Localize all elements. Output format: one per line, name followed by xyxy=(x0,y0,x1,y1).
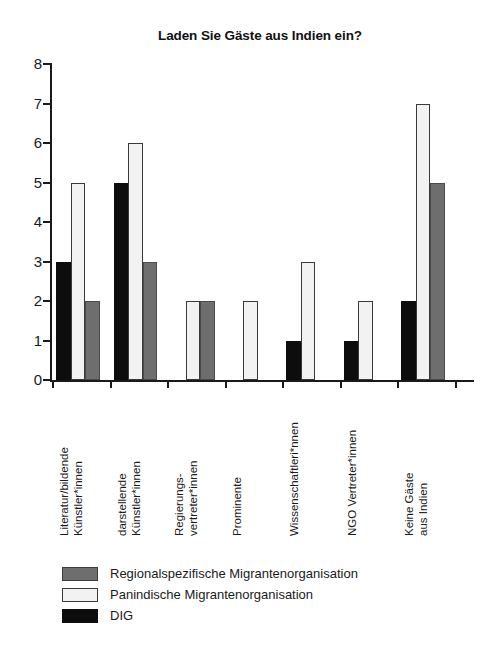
y-axis-tick-label: 1 xyxy=(14,333,42,348)
legend-item: Panindische Migrantenorganisation xyxy=(62,584,462,605)
x-axis-category-label-line: Künstler*innen xyxy=(129,386,143,536)
y-axis-tick xyxy=(43,379,52,381)
x-axis-category-label-line: Künstler*innen xyxy=(72,386,86,536)
bar-dig xyxy=(344,341,359,381)
x-axis-category-label-line: aus Indien xyxy=(417,386,431,536)
bar-pan xyxy=(416,104,431,381)
y-axis-tick xyxy=(43,63,52,65)
bar-reg xyxy=(143,262,158,381)
x-axis-category-label-line: Keine Gäste xyxy=(403,386,417,536)
y-axis-tick-label: 8 xyxy=(14,56,42,71)
y-axis-tick-labels: 876543210 xyxy=(10,64,42,382)
bar-pan xyxy=(358,301,373,380)
y-axis-tick-label: 6 xyxy=(14,135,42,150)
y-axis-tick xyxy=(43,221,52,223)
legend-label: Regionalspezifische Migrantenorganisatio… xyxy=(110,566,358,581)
bar-pan xyxy=(186,301,201,380)
legend-label: DIG xyxy=(110,608,133,623)
bar-reg xyxy=(200,301,215,380)
y-axis-tick xyxy=(43,142,52,144)
y-axis-tick xyxy=(43,300,52,302)
y-axis-tick-label: 2 xyxy=(14,293,42,308)
legend-swatch-reg xyxy=(62,567,98,581)
x-axis-category-label-line: Regierungs- xyxy=(173,386,187,536)
x-axis-category-label-line: Literatur/bildende xyxy=(58,386,72,536)
bar-dig xyxy=(56,262,71,381)
bar-pan xyxy=(301,262,316,381)
legend-swatch-dig xyxy=(62,609,98,623)
x-axis-category-label-line: Prominente xyxy=(231,386,245,536)
y-axis-tick xyxy=(43,340,52,342)
x-axis-line xyxy=(50,380,474,382)
y-axis-tick xyxy=(43,182,52,184)
bar-reg xyxy=(85,301,100,380)
legend-item: DIG xyxy=(62,605,462,626)
x-axis-category-label-line: vertreter*innen xyxy=(187,386,201,536)
x-axis-category-label-line: NGO Vertreter*innen xyxy=(346,386,360,536)
y-axis-tick-label: 0 xyxy=(14,372,42,387)
y-axis-tick xyxy=(43,103,52,105)
y-axis-tick-label: 7 xyxy=(14,96,42,111)
chart-legend: Regionalspezifische Migrantenorganisatio… xyxy=(62,563,462,626)
bar-chart-figure: Laden Sie Gäste aus Indien ein? 87654321… xyxy=(0,0,484,662)
bar-reg xyxy=(430,183,445,381)
bar-dig xyxy=(114,183,129,381)
legend-swatch-pan xyxy=(62,588,98,602)
legend-label: Panindische Migrantenorganisation xyxy=(110,587,313,602)
chart-title: Laden Sie Gäste aus Indien ein? xyxy=(60,28,460,43)
y-axis-line xyxy=(50,64,52,382)
y-axis-tick xyxy=(43,261,52,263)
legend-item: Regionalspezifische Migrantenorganisatio… xyxy=(62,563,462,584)
y-axis-tick-label: 5 xyxy=(14,175,42,190)
bar-pan xyxy=(243,301,258,380)
bar-pan xyxy=(128,143,143,380)
y-axis-tick-label: 3 xyxy=(14,254,42,269)
y-axis-tick-label: 4 xyxy=(14,214,42,229)
bar-pan xyxy=(71,183,86,381)
x-axis-category-label-line: Wissenschaftleri*nnen xyxy=(288,386,302,536)
bar-dig xyxy=(286,341,301,381)
x-axis-category-labels: Literatur/bildendeKünstler*innendarstell… xyxy=(50,386,474,546)
bar-dig xyxy=(401,301,416,380)
x-axis-category-label-line: darstellende xyxy=(116,386,130,536)
plot-area xyxy=(50,64,474,382)
